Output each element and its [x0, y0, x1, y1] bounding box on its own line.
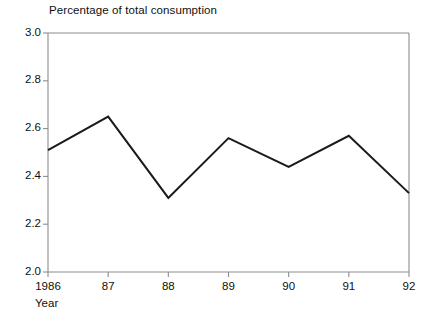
chart-title: Percentage of total consumption	[49, 4, 217, 16]
axes-group	[48, 33, 409, 272]
x-axis-tick-label: 88	[162, 280, 175, 292]
x-axis-tick-label: 92	[403, 280, 416, 292]
chart-plot-area	[0, 0, 421, 322]
y-axis-tick-label: 2.0	[11, 265, 41, 277]
x-axis-title: Year	[35, 297, 58, 309]
y-axis-tick-label: 2.8	[11, 73, 41, 85]
x-axis-tick-label: 87	[102, 280, 115, 292]
y-axis-ticks	[43, 33, 48, 272]
x-axis-tick-label: 90	[282, 280, 295, 292]
data-series-line	[48, 117, 409, 198]
y-axis-tick-label: 3.0	[11, 26, 41, 38]
y-axis-tick-label: 2.4	[11, 169, 41, 181]
x-axis-tick-label: 91	[342, 280, 355, 292]
x-axis-tick-label: 1986	[35, 280, 61, 292]
line-chart: Percentage of total consumption 2.02.22.…	[0, 0, 421, 322]
x-axis-tick-label: 89	[222, 280, 235, 292]
y-axis-tick-label: 2.2	[11, 217, 41, 229]
x-axis-ticks	[48, 272, 409, 277]
y-axis-tick-label: 2.6	[11, 121, 41, 133]
